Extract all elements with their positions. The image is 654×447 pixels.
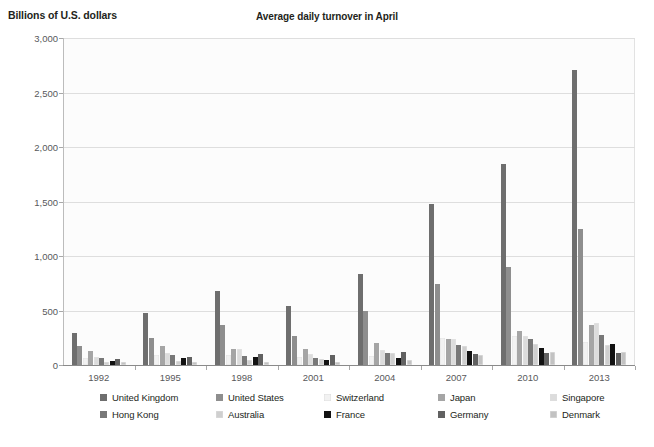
bar-group: [358, 38, 412, 365]
legend-swatch: [216, 411, 223, 418]
bar: [380, 350, 385, 365]
legend-item[interactable]: Denmark: [550, 409, 600, 420]
bar: [226, 355, 231, 365]
y-axis-tick-label: 3,000: [6, 33, 58, 44]
bar: [231, 349, 236, 365]
bar: [324, 360, 329, 365]
bar: [149, 338, 154, 365]
legend-swatch: [216, 394, 223, 401]
bar: [292, 336, 297, 365]
legend-item[interactable]: Switzerland: [324, 392, 384, 403]
bar: [94, 357, 99, 365]
bar: [160, 346, 165, 365]
bar: [523, 336, 528, 365]
bar: [99, 358, 104, 365]
y-axis-tick-label: 2,500: [6, 88, 58, 99]
bar: [77, 346, 82, 365]
x-axis-tick-mark: [492, 366, 493, 370]
bar: [335, 362, 340, 365]
y-axis-tick-label: 500: [6, 306, 58, 317]
legend-item[interactable]: United Kingdom: [100, 392, 178, 403]
x-axis-tick-mark: [278, 366, 279, 370]
bar: [220, 325, 225, 365]
bar: [572, 70, 577, 365]
x-axis-tick-label: 2004: [374, 372, 395, 383]
bar: [253, 357, 258, 365]
legend-item[interactable]: Hong Kong: [100, 409, 159, 420]
bar: [589, 325, 594, 365]
bar: [121, 362, 126, 365]
legend-item[interactable]: United States: [216, 392, 284, 403]
bar: [517, 331, 522, 365]
x-axis-tick-label: 1995: [160, 372, 181, 383]
bar: [215, 291, 220, 365]
legend-item[interactable]: France: [324, 409, 365, 420]
bar: [264, 362, 269, 365]
legend-label: Denmark: [562, 409, 600, 420]
y-axis-tick-label: 1,500: [6, 197, 58, 208]
bar-group: [572, 38, 626, 365]
bar: [385, 353, 390, 365]
bar: [72, 333, 77, 365]
legend-swatch: [438, 394, 445, 401]
legend-swatch: [324, 411, 331, 418]
y-axis-line: [63, 38, 64, 366]
bar: [176, 361, 181, 365]
bar: [143, 313, 148, 365]
bar: [451, 339, 456, 365]
legend-label: Australia: [228, 409, 264, 420]
bar: [170, 355, 175, 365]
legend-swatch: [324, 394, 331, 401]
bar: [616, 353, 621, 365]
bar: [330, 355, 335, 365]
legend-swatch: [100, 411, 107, 418]
bar: [104, 362, 109, 365]
legend-item[interactable]: Germany: [438, 409, 488, 420]
legend-label: Switzerland: [336, 392, 384, 403]
bar: [369, 356, 374, 365]
bar: [110, 361, 115, 365]
bar: [83, 358, 88, 365]
bar: [478, 355, 483, 365]
bar: [247, 360, 252, 365]
legend-label: Singapore: [562, 392, 604, 403]
bar-group: [215, 38, 269, 365]
bar: [390, 353, 395, 365]
bar: [512, 336, 517, 365]
bar-group: [501, 38, 555, 365]
legend-item[interactable]: Singapore: [550, 392, 604, 403]
x-axis-tick-mark: [421, 366, 422, 370]
bar: [462, 346, 467, 365]
legend-label: Hong Kong: [112, 409, 159, 420]
bar-group: [72, 38, 126, 365]
bar: [473, 354, 478, 365]
x-axis-tick-mark: [349, 366, 350, 370]
bar: [506, 267, 511, 365]
bar: [594, 323, 599, 365]
x-axis-tick-mark: [135, 366, 136, 370]
bar: [578, 229, 583, 365]
legend-item[interactable]: Japan: [438, 392, 475, 403]
x-axis-tick-label: 1992: [88, 372, 109, 383]
bar: [599, 335, 604, 365]
bar: [435, 284, 440, 365]
bar: [181, 358, 186, 365]
bar: [528, 339, 533, 365]
bar: [583, 342, 588, 365]
legend-swatch: [100, 394, 107, 401]
legend-item[interactable]: Australia: [216, 409, 264, 420]
bar: [429, 204, 434, 365]
bar: [258, 354, 263, 365]
legend-swatch: [550, 394, 557, 401]
bar-group: [143, 38, 197, 365]
bar: [242, 356, 247, 365]
bar: [88, 351, 93, 365]
chart-legend: United KingdomUnited StatesSwitzerlandJa…: [100, 392, 640, 426]
bar: [533, 344, 538, 365]
legend-swatch: [438, 411, 445, 418]
x-axis-tick-mark: [564, 366, 565, 370]
legend-label: Japan: [450, 392, 475, 403]
legend-label: France: [336, 409, 365, 420]
legend-label: United Kingdom: [112, 392, 178, 403]
bar: [187, 357, 192, 365]
